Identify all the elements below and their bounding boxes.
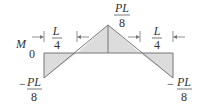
- moment-diagram: M 0 L 4 L 4 PL 8 − PL 8 − PL 8: [0, 0, 201, 112]
- axis-label-m: M: [15, 37, 27, 51]
- right-dim-numerator: L: [153, 24, 161, 38]
- left-end-sign: −: [19, 77, 26, 91]
- right-dim-denominator: 4: [154, 38, 160, 52]
- peak-numerator: PL: [114, 1, 129, 15]
- zero-label: 0: [29, 47, 35, 61]
- left-end-denominator: 8: [31, 90, 37, 104]
- right-dim-arrowhead-a: [136, 35, 140, 39]
- left-end-numerator: PL: [26, 75, 41, 89]
- right-end-denominator: 8: [181, 90, 187, 104]
- right-end-sign: −: [167, 77, 174, 91]
- peak-denominator: 8: [119, 16, 125, 30]
- right-end-numerator: PL: [176, 75, 191, 89]
- left-dim-numerator: L: [52, 24, 60, 38]
- right-dim-arrowhead-b: [173, 35, 177, 39]
- left-dim-denominator: 4: [54, 38, 60, 52]
- left-dim-arrowhead-a: [40, 35, 44, 39]
- left-dim-arrowhead-b: [77, 35, 81, 39]
